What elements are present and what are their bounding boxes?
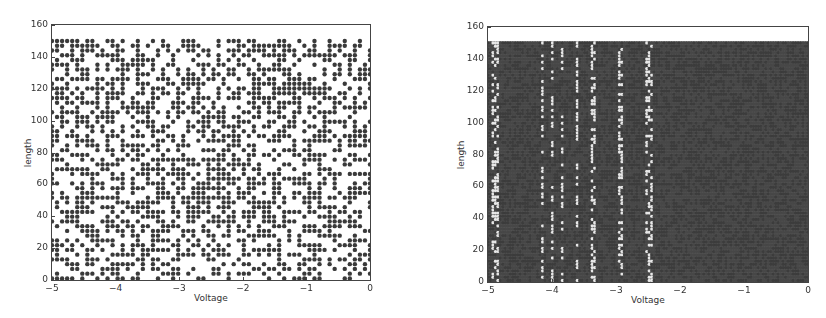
y-tick-label: 40 bbox=[24, 211, 48, 220]
y-tick-mark bbox=[488, 123, 491, 124]
x-tick-mark bbox=[179, 277, 180, 280]
y-tick-label: 160 bbox=[24, 20, 48, 29]
y-tick-mark bbox=[52, 89, 55, 90]
scatter-chart-dense: length Voltage 020406080100120140160 −5−… bbox=[413, 0, 826, 318]
x-tick-mark bbox=[488, 279, 489, 282]
y-tick-mark bbox=[52, 153, 55, 154]
y-tick-mark bbox=[52, 248, 55, 249]
y-tick-label: 60 bbox=[24, 179, 48, 188]
y-tick-mark bbox=[488, 250, 491, 251]
y-tick-label: 20 bbox=[460, 245, 484, 254]
x-tick-label: −4 bbox=[540, 286, 564, 295]
y-tick-label: 160 bbox=[460, 22, 484, 31]
x-tick-mark bbox=[306, 277, 307, 280]
y-tick-label: 20 bbox=[24, 243, 48, 252]
x-tick-label: 0 bbox=[796, 286, 820, 295]
x-tick-mark bbox=[243, 277, 244, 280]
scatter-chart-sparse: length Voltage 020406080100120140160 −5−… bbox=[0, 0, 413, 318]
y-tick-mark bbox=[488, 186, 491, 187]
x-tick-mark bbox=[680, 279, 681, 282]
x-tick-label: −5 bbox=[476, 286, 500, 295]
y-tick-label: 140 bbox=[460, 54, 484, 63]
y-tick-mark bbox=[488, 91, 491, 92]
y-tick-label: 100 bbox=[460, 118, 484, 127]
y-tick-mark bbox=[488, 218, 491, 219]
y-tick-label: 140 bbox=[24, 52, 48, 61]
y-tick-mark bbox=[488, 155, 491, 156]
y-tick-mark bbox=[52, 216, 55, 217]
y-tick-label: 120 bbox=[24, 84, 48, 93]
x-tick-mark bbox=[52, 277, 53, 280]
x-tick-label: −4 bbox=[104, 284, 128, 293]
x-axis-label: Voltage bbox=[608, 295, 688, 305]
y-tick-mark bbox=[52, 184, 55, 185]
scatter-points bbox=[488, 27, 808, 282]
scatter-points bbox=[52, 25, 370, 280]
x-tick-mark bbox=[808, 279, 809, 282]
x-tick-mark bbox=[116, 277, 117, 280]
x-tick-label: −3 bbox=[604, 286, 628, 295]
y-tick-label: 80 bbox=[460, 150, 484, 159]
x-tick-label: −2 bbox=[668, 286, 692, 295]
y-tick-label: 60 bbox=[460, 181, 484, 190]
plot-area bbox=[51, 24, 371, 281]
x-tick-mark bbox=[616, 279, 617, 282]
x-tick-label: −2 bbox=[231, 284, 255, 293]
y-tick-label: 120 bbox=[460, 86, 484, 95]
y-tick-mark bbox=[52, 280, 55, 281]
y-tick-label: 80 bbox=[24, 148, 48, 157]
x-axis-label: Voltage bbox=[171, 293, 251, 303]
y-tick-mark bbox=[488, 27, 491, 28]
x-tick-label: −1 bbox=[732, 286, 756, 295]
y-tick-mark bbox=[488, 282, 491, 283]
y-tick-mark bbox=[52, 25, 55, 26]
x-tick-label: −5 bbox=[40, 284, 64, 293]
x-tick-mark bbox=[744, 279, 745, 282]
y-tick-mark bbox=[52, 57, 55, 58]
y-tick-label: 40 bbox=[460, 213, 484, 222]
x-tick-label: −3 bbox=[167, 284, 191, 293]
plot-area bbox=[487, 26, 809, 283]
y-tick-label: 100 bbox=[24, 116, 48, 125]
x-tick-mark bbox=[552, 279, 553, 282]
y-tick-mark bbox=[52, 121, 55, 122]
x-tick-label: −1 bbox=[294, 284, 318, 293]
y-tick-mark bbox=[488, 59, 491, 60]
x-tick-mark bbox=[370, 277, 371, 280]
x-tick-label: 0 bbox=[358, 284, 382, 293]
